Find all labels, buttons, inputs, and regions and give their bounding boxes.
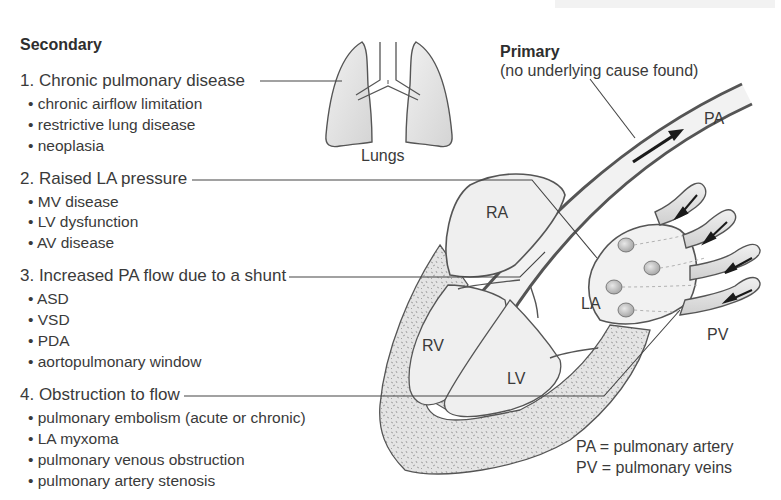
group-1-item: • neoplasia [28, 137, 104, 155]
primary-subtitle: (no underlying cause found) [500, 62, 698, 80]
group-4-title: 4. Obstruction to flow [20, 385, 180, 405]
group-4-item: • pulmonary embolism (acute or chronic) [28, 409, 306, 427]
label-lungs: Lungs [361, 147, 405, 165]
heart-illustration [380, 174, 705, 474]
label-lv: LV [507, 370, 525, 388]
label-la: LA [581, 295, 601, 313]
label-ra: RA [486, 204, 508, 222]
group-4-item: • pulmonary venous obstruction [28, 451, 245, 469]
group-3-title: 3. Increased PA flow due to a shunt [20, 266, 286, 286]
label-pv: PV [707, 326, 728, 344]
group-2-item: • MV disease [28, 193, 119, 211]
group-3-item: • PDA [28, 332, 70, 350]
group-4-item: • pulmonary artery stenosis [28, 472, 215, 490]
group-1-item: • restrictive lung disease [28, 116, 195, 134]
group-2-title: 2. Raised LA pressure [20, 169, 187, 189]
group-3-item: • VSD [28, 311, 70, 329]
group-1-item: • chronic airflow limitation [28, 95, 202, 113]
primary-heading: Primary [500, 43, 560, 61]
group-3-item: • ASD [28, 290, 69, 308]
group-2-item: • LV dysfunction [28, 213, 138, 231]
lungs-icon [326, 42, 452, 147]
group-3-item: • aortopulmonary window [28, 353, 201, 371]
legend-pv: PV = pulmonary veins [576, 459, 732, 477]
group-2-item: • AV disease [28, 234, 114, 252]
secondary-heading: Secondary [20, 36, 102, 54]
group-4-item: • LA myxoma [28, 430, 119, 448]
label-rv: RV [422, 337, 444, 355]
label-pa: PA [704, 110, 724, 128]
legend-pa: PA = pulmonary artery [576, 438, 734, 456]
group-1-title: 1. Chronic pulmonary disease [20, 71, 245, 91]
